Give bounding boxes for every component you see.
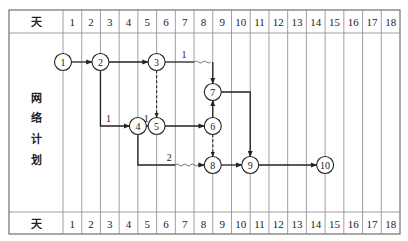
event-node-label: 4 bbox=[135, 121, 140, 132]
event-node-10: 10 bbox=[317, 157, 334, 174]
event-node-label: 8 bbox=[210, 160, 215, 171]
footer-day-number: 8 bbox=[201, 218, 207, 230]
side-label-char-3: 计 bbox=[31, 132, 42, 146]
footer-day-number: 13 bbox=[292, 218, 304, 230]
header-day-number: 11 bbox=[254, 16, 265, 28]
header-day-label: 天 bbox=[31, 16, 43, 29]
header-day-number: 18 bbox=[385, 16, 397, 28]
event-node-label: 6 bbox=[210, 121, 215, 132]
event-node-2: 2 bbox=[92, 54, 109, 71]
side-label-char-1: 网 bbox=[31, 92, 42, 105]
event-node-4: 4 bbox=[129, 118, 146, 135]
footer-day-number: 7 bbox=[182, 218, 188, 230]
float-label-2-4: 1 bbox=[106, 113, 111, 124]
header-day-number: 10 bbox=[235, 16, 247, 28]
footer-day-number: 2 bbox=[88, 218, 94, 230]
footer-day-number: 6 bbox=[163, 218, 169, 230]
footer-day-number: 16 bbox=[348, 218, 360, 230]
footer-day-number: 3 bbox=[107, 218, 113, 230]
free-float-wave-3-7 bbox=[194, 61, 211, 63]
header-day-number: 12 bbox=[273, 16, 284, 28]
footer-day-number: 12 bbox=[273, 218, 284, 230]
event-node-label: 10 bbox=[320, 160, 330, 171]
header-day-number: 16 bbox=[348, 16, 360, 28]
header-day-number: 14 bbox=[310, 16, 322, 28]
footer-day-number: 15 bbox=[329, 218, 341, 230]
event-node-8: 8 bbox=[204, 157, 221, 174]
event-node-6: 6 bbox=[204, 118, 221, 135]
header-day-number: 2 bbox=[88, 16, 94, 28]
event-node-label: 2 bbox=[98, 57, 103, 68]
event-node-label: 5 bbox=[154, 121, 159, 132]
footer-day-number: 11 bbox=[254, 218, 265, 230]
event-node-label: 9 bbox=[248, 160, 253, 171]
header-day-number: 3 bbox=[107, 16, 113, 28]
network-plan-diagram: 天 天 网 络 计 划 1122334455667788991010111112… bbox=[0, 0, 408, 241]
side-label-char-4: 划 bbox=[31, 153, 42, 167]
footer-day-number: 10 bbox=[235, 218, 247, 230]
footer-day-number: 4 bbox=[126, 218, 132, 230]
event-node-label: 3 bbox=[154, 57, 159, 68]
footer-day-number: 9 bbox=[219, 218, 225, 230]
float-label-4-8: 2 bbox=[167, 152, 172, 163]
header-day-number: 8 bbox=[201, 16, 207, 28]
side-label-char-2: 络 bbox=[31, 111, 42, 125]
table-frame bbox=[9, 10, 400, 234]
footer-day-number: 14 bbox=[310, 218, 322, 230]
header-day-number: 4 bbox=[126, 16, 132, 28]
header-day-number: 13 bbox=[292, 16, 304, 28]
header-day-number: 1 bbox=[70, 16, 76, 28]
footer-day-number: 1 bbox=[70, 218, 76, 230]
event-node-9: 9 bbox=[242, 157, 259, 174]
event-node-3: 3 bbox=[148, 54, 165, 71]
header-day-number: 6 bbox=[163, 16, 169, 28]
header-day-number: 17 bbox=[366, 16, 378, 28]
header-day-number: 5 bbox=[145, 16, 151, 28]
event-node-5: 5 bbox=[148, 118, 165, 135]
event-node-7: 7 bbox=[204, 84, 221, 101]
float-label-3-7: 1 bbox=[182, 49, 187, 60]
free-float-wave-4-8 bbox=[175, 164, 198, 166]
activity-arrow-2-4 bbox=[100, 71, 129, 127]
header-day-number: 15 bbox=[329, 16, 341, 28]
activity-arrow-7-9 bbox=[221, 92, 250, 157]
event-node-label: 7 bbox=[210, 87, 215, 98]
footer-day-number: 18 bbox=[385, 218, 397, 230]
event-node-1: 1 bbox=[55, 54, 72, 71]
footer-day-number: 17 bbox=[366, 218, 378, 230]
event-node-label: 1 bbox=[61, 57, 66, 68]
header-day-number: 9 bbox=[219, 16, 225, 28]
header-day-number: 7 bbox=[182, 16, 188, 28]
footer-day-label: 天 bbox=[31, 218, 43, 231]
timescale-grid bbox=[9, 10, 400, 234]
footer-day-number: 5 bbox=[145, 218, 151, 230]
